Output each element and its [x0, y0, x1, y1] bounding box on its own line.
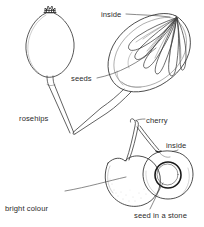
label-rosehips: rosehips [19, 114, 49, 123]
label-inside-rosehip: inside [101, 10, 121, 19]
leader-seeds [97, 48, 156, 78]
figure-canvas: inside seeds rosehips cherry inside brig… [0, 0, 204, 227]
leader-cherry [136, 119, 145, 121]
whole-cherry-drawing [105, 119, 161, 207]
label-bright-colour-block: bright colour and flesh attracts animals [5, 186, 60, 227]
cut-cherry-drawing [143, 151, 193, 199]
label-seeds: seeds [71, 74, 92, 83]
label-cherry: cherry [146, 116, 168, 125]
leader-inside-cherry [172, 150, 178, 152]
label-inside-cherry: inside [166, 141, 186, 150]
label-seed-in-a-stone: seed in a stone [134, 211, 187, 220]
leader-seed-in-stone [150, 183, 163, 209]
label-bright-colour-line1: bright colour [5, 204, 60, 213]
leader-bright-colour [65, 177, 126, 191]
